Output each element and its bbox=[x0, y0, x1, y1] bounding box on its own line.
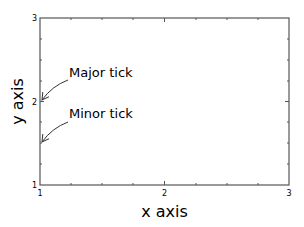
plot-frame bbox=[40, 18, 289, 185]
x-tick-label-1: 1 bbox=[37, 189, 42, 198]
chart: 1 2 3 3 2 1 x axis y axis Major tick Min… bbox=[0, 0, 304, 227]
annotation-minor-tick: Minor tick bbox=[69, 106, 133, 121]
annotation-major-tick: Major tick bbox=[69, 65, 133, 80]
y-axis-label: y axis bbox=[8, 78, 27, 125]
x-axis-label: x axis bbox=[141, 202, 188, 221]
x-tick-label-2: 2 bbox=[162, 189, 167, 198]
y-tick-label-1: 1 bbox=[32, 181, 37, 190]
y-tick-label-3: 3 bbox=[32, 14, 37, 23]
y-tick-label-2: 2 bbox=[32, 98, 37, 107]
x-tick-label-3: 3 bbox=[286, 189, 291, 198]
